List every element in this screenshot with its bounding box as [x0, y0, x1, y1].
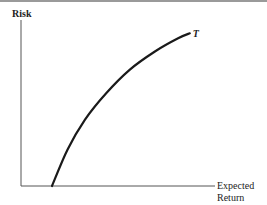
risk-return-chart: Risk Expected Return T [0, 0, 267, 205]
x-axis-label-line-1: Expected [217, 180, 254, 191]
series-label-T: T [193, 28, 200, 39]
axes [21, 20, 215, 186]
x-axis-label-line-2: Return [217, 192, 244, 203]
series-line-T [52, 33, 190, 186]
y-axis-label: Risk [12, 8, 32, 19]
